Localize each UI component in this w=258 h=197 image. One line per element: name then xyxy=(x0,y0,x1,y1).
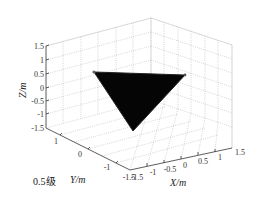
svg-text:0: 0 xyxy=(78,150,82,159)
x-axis-label: X/m xyxy=(169,177,186,188)
back-right-wall-grid xyxy=(151,18,232,127)
svg-text:-1: -1 xyxy=(37,110,44,119)
svg-text:1: 1 xyxy=(218,153,222,162)
svg-text:0.5: 0.5 xyxy=(34,70,44,79)
svg-text:1: 1 xyxy=(54,137,58,146)
svg-text:-1: -1 xyxy=(104,163,111,172)
svg-text:-1.5: -1.5 xyxy=(31,124,44,133)
svg-text:0: 0 xyxy=(40,84,44,93)
z-axis-label: Z/m xyxy=(17,82,28,98)
z-tick-labels: 1.5 1 0.5 0 -0.5 -1 -1.5 xyxy=(31,42,44,133)
x-tick-labels: -1.5 -1 -0.5 0 0.5 1 1.5 xyxy=(131,148,245,182)
3d-plot: 1.5 1 0.5 0 -0.5 -1 -1.5 1 0 -1 -1.5 -1.… xyxy=(0,0,258,197)
svg-text:-1: -1 xyxy=(150,168,157,177)
y-axis-label: Y/m xyxy=(70,174,86,185)
svg-text:0: 0 xyxy=(183,161,187,170)
y-tick-labels: 1 0 -1 -1.5 xyxy=(54,137,135,182)
svg-text:-0.5: -0.5 xyxy=(31,97,44,106)
caption-grade: 0.5级 xyxy=(33,176,56,187)
svg-text:0.5: 0.5 xyxy=(198,157,208,166)
vertex-marker xyxy=(92,70,95,73)
svg-text:-1.5: -1.5 xyxy=(131,173,144,182)
svg-text:1.5: 1.5 xyxy=(34,42,44,51)
svg-text:1.5: 1.5 xyxy=(235,148,245,157)
vertex-marker xyxy=(184,74,187,77)
svg-text:1: 1 xyxy=(40,56,44,65)
svg-text:-0.5: -0.5 xyxy=(164,165,177,174)
